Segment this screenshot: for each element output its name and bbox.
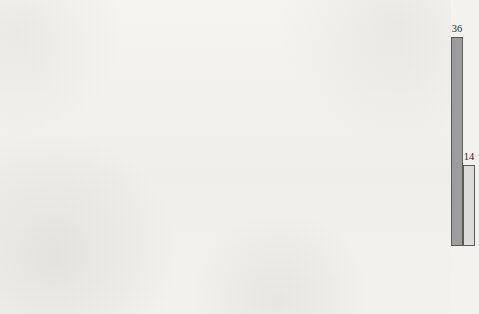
x-axis-category-label: Nogroups [389,254,435,277]
bar [337,182,349,246]
x-axis-tick [317,246,318,252]
bar-value-label: 34 [405,36,433,47]
bar [375,159,387,246]
x-axis-tick [165,246,166,252]
x-axis-category-label-line: No [389,254,435,265]
bar [425,171,437,246]
x-axis-category-label-line: groups [161,288,207,299]
bar [463,165,475,246]
bar-value-label: 13 [379,158,407,169]
bar-value-label: 12 [303,163,331,174]
legend-item: Less than 10,000 [60,28,170,44]
x-axis-tick [127,246,128,252]
bar-value-label: 15 [367,146,395,157]
x-axis-category-label-line: groups [389,265,435,276]
y-axis-title: Percent [22,3,56,15]
y-axis-tick-label: 20 [0,124,41,135]
bar [299,200,311,246]
x-axis-tick [355,246,356,252]
bar-value-label: 4 [113,210,141,221]
bar [261,205,273,246]
y-axis-tick-label: 10 [0,182,41,193]
bar [147,234,159,246]
bar [121,223,133,246]
x-axis-tick [203,246,204,252]
bar [349,119,361,246]
x-axis-category-label-line: groups [313,277,359,288]
x-axis-tick [431,246,432,252]
y-axis-tick-label: 15 [0,153,41,164]
bar [159,148,171,246]
bar [451,37,463,246]
bar-value-label: 13 [417,158,445,169]
legend-item: More than 10,000 [60,44,170,60]
bar-value-label: 11 [227,169,255,180]
y-axis-tick-label: 25 [0,95,41,106]
x-axis-category-label-line: logical [161,277,207,288]
x-axis-tick [89,246,90,252]
bar [185,223,197,246]
x-axis-tick [241,246,242,252]
x-axis-category-label-line: munity [313,265,359,276]
x-axis-tick [393,246,394,252]
legend-label: Less than 10,000 [88,31,166,42]
x-axis-tick [279,246,280,252]
bar-value-label: 22 [341,106,369,117]
legend-swatch [60,47,81,57]
bar [235,182,247,246]
bar-value-label: 36 [443,24,471,35]
y-axis-tick-label: 30 [0,66,41,77]
x-axis-category-label-line: indi- [237,277,283,288]
y-axis-tick-label: 5 [0,211,41,222]
bar [197,211,209,246]
bar-value-label: 14 [455,152,479,163]
bar [413,49,425,246]
bar [109,240,121,246]
chart-legend: Less than 10,000More than 10,000 [60,28,170,60]
bar-value-label: 6 [189,198,217,209]
bar [223,211,235,246]
x-axis-category-label-line: viduals [237,288,283,299]
legend-label: More than 10,000 [88,47,170,58]
y-axis-tick-label: 35 [0,37,41,48]
bar-value-label: 26 [265,82,293,93]
bar [273,95,285,246]
bar-value-label: 17 [151,135,179,146]
x-axis-tick [51,246,52,252]
legend-swatch [60,31,81,41]
bar [387,171,399,246]
bar [311,176,323,246]
